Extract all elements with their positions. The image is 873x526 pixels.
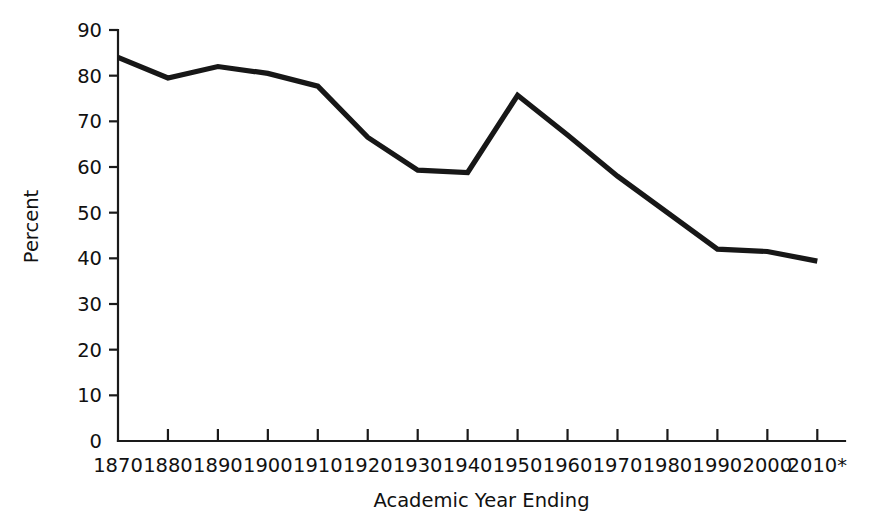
y-axis-tick-label: 60 — [77, 156, 102, 179]
plot-area: 0102030405060708090187018801890190019101… — [20, 19, 847, 512]
x-axis-title: Academic Year Ending — [373, 489, 589, 512]
y-axis-tick-label: 50 — [77, 202, 102, 225]
x-axis-tick-label: 1960 — [543, 454, 593, 477]
chart-canvas: 0102030405060708090187018801890190019101… — [0, 0, 873, 526]
x-axis-tick-label: 1870 — [93, 454, 143, 477]
y-axis-tick-label: 30 — [77, 293, 102, 316]
line-chart: 0102030405060708090187018801890190019101… — [0, 0, 873, 526]
x-axis-tick-label: 2000 — [743, 454, 793, 477]
y-axis-tick-label: 40 — [77, 247, 102, 270]
x-axis-tick-label: 1950 — [493, 454, 543, 477]
y-axis-tick-label: 70 — [77, 110, 102, 133]
y-axis-tick-label: 20 — [77, 339, 102, 362]
x-axis-tick-label: 1990 — [693, 454, 743, 477]
x-axis-tick-label: 1900 — [243, 454, 293, 477]
y-axis-tick-label: 80 — [77, 65, 102, 88]
x-axis-tick-label: 1980 — [643, 454, 693, 477]
x-axis-tick-label: 1880 — [143, 454, 193, 477]
y-axis-tick-label: 0 — [90, 430, 102, 453]
y-axis-tick-label: 10 — [77, 384, 102, 407]
x-axis-tick-label: 1910 — [293, 454, 343, 477]
x-axis-tick-label: 1970 — [593, 454, 643, 477]
x-axis-tick-label: 1920 — [343, 454, 393, 477]
x-axis-tick-label: 1940 — [443, 454, 493, 477]
x-axis-tick-label: 2010* — [788, 454, 848, 477]
data-series-line — [118, 57, 817, 261]
y-axis-title: Percent — [20, 189, 43, 263]
x-axis-tick-label: 1890 — [193, 454, 243, 477]
x-axis-tick-label: 1930 — [393, 454, 443, 477]
y-axis-tick-label: 90 — [77, 19, 102, 42]
